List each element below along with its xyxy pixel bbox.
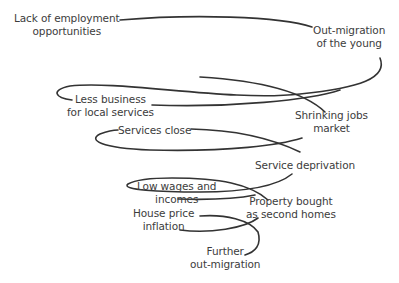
node-out-migration-young: Out-migration of the young: [313, 24, 385, 49]
node-label-line: opportunities: [14, 25, 120, 38]
node-label-line: for local services: [67, 106, 154, 119]
node-label-line: Further: [190, 245, 260, 258]
node-label-line: Service deprivation: [255, 159, 355, 172]
node-services-close: Services close: [118, 124, 191, 137]
node-further-out-migration: Further out-migration: [190, 245, 260, 270]
node-label-line: House price: [133, 207, 194, 220]
node-shrinking-jobs: Shrinking jobs market: [295, 109, 368, 134]
node-label-line: out-migration: [190, 258, 260, 271]
node-label-line: Out-migration: [313, 24, 385, 37]
node-low-wages: Low wages and incomes: [137, 180, 216, 205]
node-label-line: of the young: [313, 37, 385, 50]
node-label-line: Lack of employment: [14, 12, 120, 25]
node-label-line: market: [295, 122, 368, 135]
node-label-line: as second homes: [246, 208, 336, 221]
node-lack-employment: Lack of employment opportunities: [14, 12, 120, 37]
node-label-line: Property bought: [246, 195, 336, 208]
node-less-business: Less business for local services: [67, 93, 154, 118]
node-label-line: Less business: [67, 93, 154, 106]
node-label-line: inflation: [133, 220, 194, 233]
node-label-line: Shrinking jobs: [295, 109, 368, 122]
node-service-deprivation: Service deprivation: [255, 159, 355, 172]
node-label-line: Low wages and: [137, 180, 216, 193]
node-label-line: Services close: [118, 124, 191, 137]
node-house-price: House price inflation: [133, 207, 194, 232]
node-property-second-homes: Property bought as second homes: [246, 195, 336, 220]
node-label-line: incomes: [137, 193, 216, 206]
